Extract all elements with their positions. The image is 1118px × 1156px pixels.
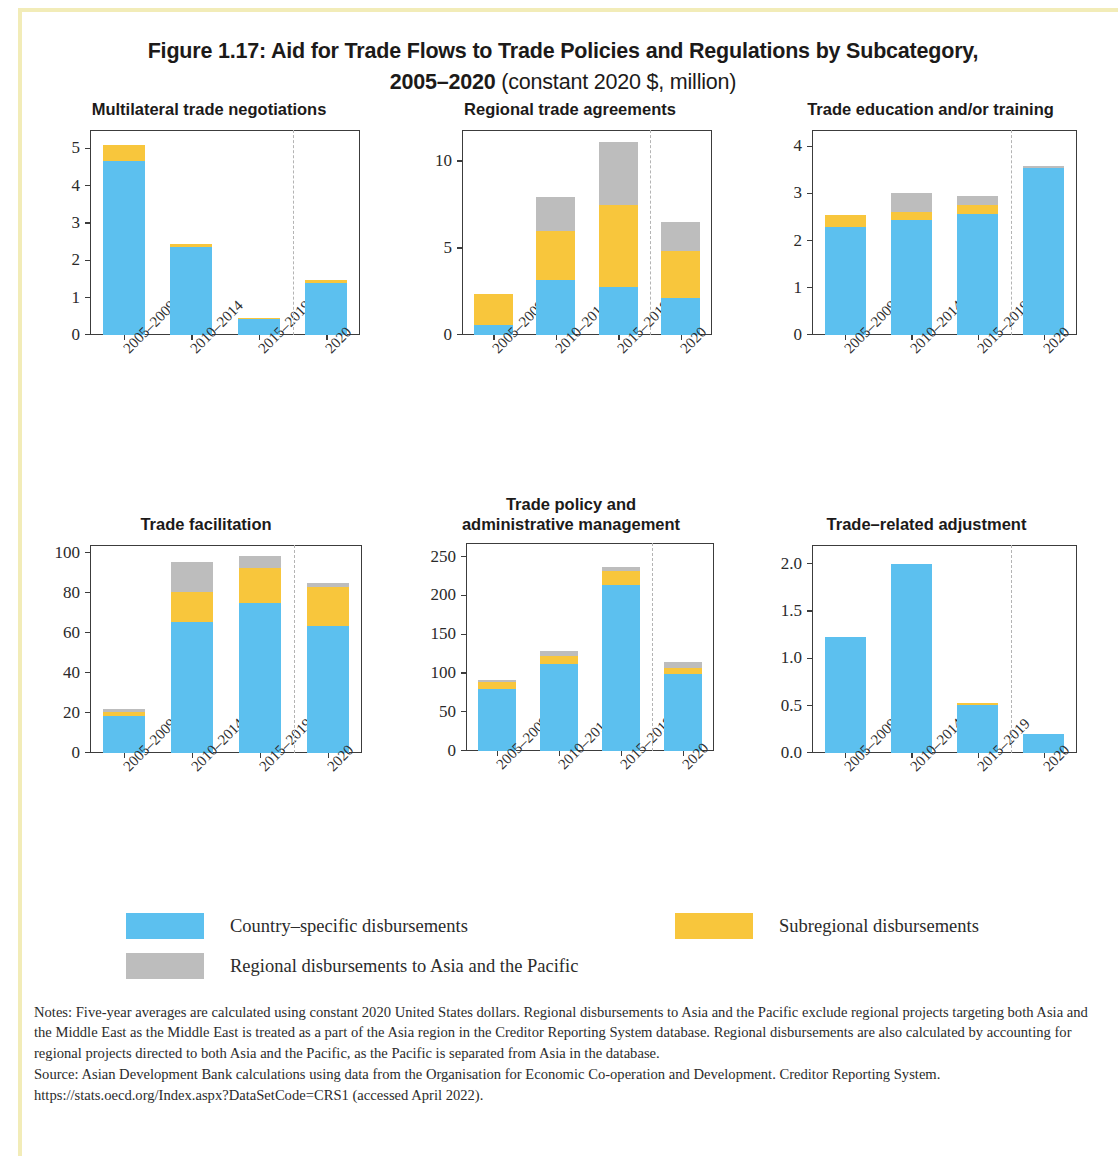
y-axis-tick-mark: [85, 185, 90, 186]
bar-regional-trade-agreements-2[interactable]: [599, 130, 638, 335]
y-axis-tick-label: 150: [400, 624, 456, 644]
y-axis-tick-label: 50: [400, 702, 456, 722]
bar-trade-facilitation-0[interactable]: [103, 545, 145, 753]
y-axis-tick-label: 10: [400, 151, 452, 171]
legend-item-blue[interactable]: Country–specific disbursements: [126, 913, 468, 939]
y-axis-tick-mark: [461, 711, 466, 712]
bar-segment: [661, 251, 700, 298]
bar-segment: [103, 709, 145, 713]
y-axis-tick-label: 0: [30, 325, 80, 345]
bar-trade-education-and-or-training-1[interactable]: [891, 130, 932, 335]
bar-regional-trade-agreements-0[interactable]: [474, 130, 513, 335]
legend-item-gray[interactable]: Regional disbursements to Asia and the P…: [126, 953, 578, 979]
bar-segment: [664, 674, 702, 751]
y-axis-tick-label: 5: [400, 238, 452, 258]
y-axis-tick-label: 0: [400, 325, 452, 345]
y-axis-tick-label: 1.5: [748, 601, 802, 621]
bar-segment: [891, 564, 932, 753]
figure-title-years: 2005–2020: [390, 70, 496, 94]
bar-trade-facilitation-1[interactable]: [171, 545, 213, 753]
y-axis-tick-mark: [85, 148, 90, 149]
bar-segment: [599, 142, 638, 205]
bar-segment: [478, 680, 516, 682]
subplot-title: Trade–related adjustment: [759, 515, 1094, 535]
legend-label: Subregional disbursements: [779, 916, 979, 937]
y-axis-tick-label: 20: [22, 703, 80, 723]
bar-segment: [891, 220, 932, 335]
y-axis-tick-label: 0: [756, 325, 802, 345]
bar-trade-policy-and-administrative-management-3[interactable]: [664, 543, 702, 751]
y-axis-tick-label: 60: [22, 623, 80, 643]
bar-trade-policy-and-administrative-management-2[interactable]: [602, 543, 640, 751]
bar-trade-related-adjustment-3[interactable]: [1023, 545, 1064, 753]
bar-segment: [602, 571, 640, 585]
y-axis-tick-mark: [461, 672, 466, 673]
bar-segment: [664, 668, 702, 673]
legend-label: Regional disbursements to Asia and the P…: [230, 956, 578, 977]
legend-swatch-yellow: [675, 913, 753, 939]
bar-segment: [307, 626, 349, 753]
y-axis-tick-mark: [461, 634, 466, 635]
subplot-trade-facilitation: Trade facilitation0204060801002005–20092…: [22, 515, 374, 873]
bar-multilateral-trade-negotiations-1[interactable]: [170, 130, 212, 335]
legend-label: Country–specific disbursements: [230, 916, 468, 937]
y-axis-tick-mark: [85, 552, 90, 553]
bar-segment: [540, 664, 578, 751]
subplot-trade-related-adjustment: Trade–related adjustment0.00.51.01.52.02…: [748, 515, 1089, 873]
subplot-title: Trade facilitation: [34, 515, 379, 535]
bar-segment: [478, 689, 516, 751]
bar-segment: [307, 587, 349, 626]
bar-segment: [478, 682, 516, 688]
y-axis-tick-mark: [807, 240, 812, 241]
bar-segment: [825, 227, 866, 334]
y-axis-tick-label: 100: [400, 663, 456, 683]
y-axis-tick-mark: [85, 632, 90, 633]
legend-item-yellow[interactable]: Subregional disbursements: [675, 913, 979, 939]
forecast-divider: [650, 130, 651, 335]
legend-swatch-blue: [126, 913, 204, 939]
forecast-divider: [1011, 130, 1012, 335]
bar-segment: [540, 656, 578, 664]
bar-trade-related-adjustment-0[interactable]: [825, 545, 866, 753]
y-axis-tick-mark: [807, 146, 812, 147]
bar-multilateral-trade-negotiations-2[interactable]: [238, 130, 280, 335]
bar-trade-related-adjustment-1[interactable]: [891, 545, 932, 753]
y-axis-tick-label: 40: [22, 663, 80, 683]
bar-trade-education-and-or-training-2[interactable]: [957, 130, 998, 335]
bar-segment: [239, 556, 281, 568]
bar-regional-trade-agreements-3[interactable]: [661, 130, 700, 335]
bar-trade-policy-and-administrative-management-0[interactable]: [478, 543, 516, 751]
subplot-title-line-2: administrative management: [411, 515, 731, 535]
y-axis-tick-label: 4: [30, 176, 80, 196]
bar-segment: [238, 318, 280, 319]
bar-trade-education-and-or-training-0[interactable]: [825, 130, 866, 335]
bar-segment: [891, 212, 932, 220]
bar-multilateral-trade-negotiations-0[interactable]: [103, 130, 145, 335]
y-axis-tick-label: 1: [756, 278, 802, 298]
bar-segment: [171, 592, 213, 622]
bar-segment: [957, 214, 998, 335]
bar-multilateral-trade-negotiations-3[interactable]: [305, 130, 347, 335]
subplot-multilateral-trade-negotiations: Multilateral trade negotiations012345200…: [30, 100, 372, 455]
bar-trade-facilitation-2[interactable]: [239, 545, 281, 753]
bar-segment: [957, 703, 998, 705]
subplot-title: Multilateral trade negotiations: [44, 100, 374, 120]
y-axis-tick-label: 1: [30, 288, 80, 308]
bar-trade-related-adjustment-2[interactable]: [957, 545, 998, 753]
subplot-title: Trade education and/or training: [766, 100, 1096, 120]
y-axis-tick-mark: [461, 595, 466, 596]
bar-segment: [1023, 168, 1064, 335]
bar-segment: [171, 562, 213, 592]
y-axis-tick-mark: [85, 592, 90, 593]
y-axis-tick-label: 5: [30, 138, 80, 158]
bar-regional-trade-agreements-1[interactable]: [536, 130, 575, 335]
legend-swatch-gray: [126, 953, 204, 979]
bar-segment: [599, 205, 638, 287]
bar-segment: [957, 205, 998, 214]
bar-trade-facilitation-3[interactable]: [307, 545, 349, 753]
bar-segment: [1023, 166, 1064, 168]
y-axis-tick-mark: [461, 556, 466, 557]
bar-trade-policy-and-administrative-management-1[interactable]: [540, 543, 578, 751]
forecast-divider: [1011, 545, 1012, 753]
bar-trade-education-and-or-training-3[interactable]: [1023, 130, 1064, 335]
